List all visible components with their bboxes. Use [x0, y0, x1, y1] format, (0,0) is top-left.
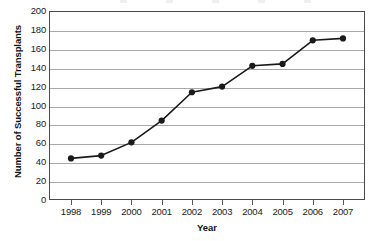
x-axis-tick [192, 200, 193, 205]
line-chart: Number of Successful Transplants 2001801… [0, 0, 370, 241]
data-point [98, 152, 104, 158]
y-axis-tick-label: 80 [2, 119, 46, 129]
x-axis-tick [101, 200, 102, 205]
data-point [128, 139, 134, 145]
data-point [340, 35, 346, 41]
data-point [279, 61, 285, 67]
data-point [249, 63, 255, 69]
data-point [219, 84, 225, 90]
y-axis-tick-label: 20 [2, 176, 46, 186]
data-point [189, 89, 195, 95]
data-point [159, 118, 165, 124]
series-line-successful-transplants [71, 38, 343, 158]
x-axis-tick [222, 200, 223, 205]
x-axis-tick [313, 200, 314, 205]
y-axis-tick-label: 140 [2, 63, 46, 73]
y-axis-tick-label: 120 [2, 82, 46, 92]
x-axis-title: Year [49, 222, 365, 233]
y-axis-tick-label: 0 [2, 195, 46, 205]
y-axis-tick-label: 100 [2, 101, 46, 111]
x-axis-tick-labels: 1998199920002001200220032004200520062007 [0, 206, 370, 220]
y-axis-tick-label: 200 [2, 6, 46, 16]
x-axis-tick [343, 200, 344, 205]
data-point [68, 155, 74, 161]
scan-artifact-strip [120, 0, 350, 3]
x-axis-tick [283, 200, 284, 205]
x-axis-tick [131, 200, 132, 205]
y-axis-tick-labels: 200180160140120100806040200 [0, 0, 46, 241]
y-axis-tick-label: 60 [2, 138, 46, 148]
x-axis-tick [252, 200, 253, 205]
series-markers [68, 35, 346, 161]
y-axis-tick-label: 40 [2, 157, 46, 167]
x-axis-tick [162, 200, 163, 205]
x-axis-tick-label: 2007 [323, 206, 363, 217]
y-axis-tick-label: 180 [2, 25, 46, 35]
data-series-layer [49, 11, 365, 200]
x-axis-tick [71, 200, 72, 205]
y-axis-tick-label: 160 [2, 44, 46, 54]
data-point [310, 37, 316, 43]
